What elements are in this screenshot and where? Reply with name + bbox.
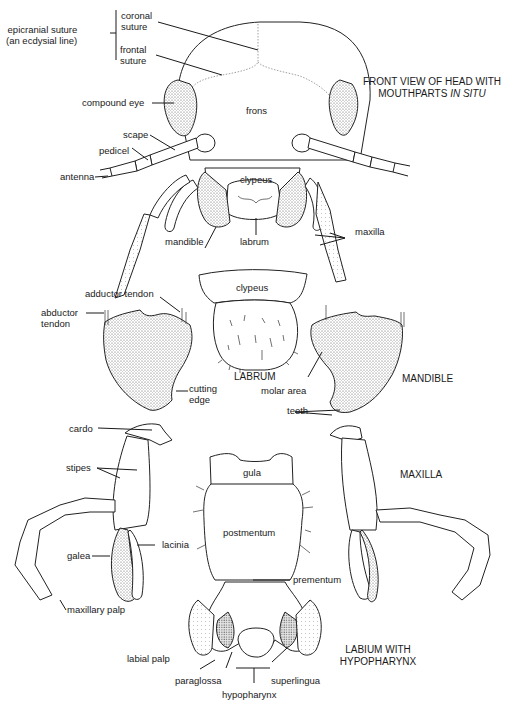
label-lacinia: lacinia [162, 540, 189, 551]
label-adductor-tendon: adductor tendon [85, 289, 154, 300]
label-paraglossa: paraglossa [175, 676, 221, 687]
label-pedicel: pedicel [99, 146, 129, 157]
label-compound-eye: compound eye [82, 98, 144, 109]
maxilla-detached-left [15, 424, 172, 601]
label-stipes: stipes [66, 463, 91, 474]
label-maxilla-head: maxilla [355, 227, 385, 238]
label-cardo: cardo [69, 424, 93, 435]
label-mandible-head: mandible [165, 237, 204, 248]
stipes-right [341, 438, 377, 530]
maxillary-palp-detached-right [376, 508, 490, 600]
label-hypopharynx: hypopharynx [222, 690, 276, 701]
hypopharynx-lobe [238, 628, 274, 657]
label-frons: frons [246, 106, 267, 117]
labrum-plate [213, 300, 297, 370]
head-panel-title: FRONT VIEW OF HEAD WITHMOUTHPARTS IN SIT… [357, 76, 507, 100]
labium-detached [189, 454, 321, 658]
label-postmentum: postmentum [223, 528, 275, 539]
maxilla-panel-title: MAXILLA [400, 469, 442, 481]
mandible-detached-left [104, 308, 192, 410]
label-frontal-suture: frontalsuture [120, 45, 146, 66]
label-maxillary-palp: maxillary palp [67, 605, 125, 616]
labium-panel-title: LABIUM WITHHYPOPHARYNX [318, 644, 438, 668]
maxillary-palp-detached-left [15, 498, 115, 600]
label-gula: gula [243, 468, 261, 479]
label-superlingua: superlingua [271, 676, 320, 687]
label-cutting-edge: cuttingedge [189, 384, 217, 405]
label-abductor-tendon: abductortendon [41, 308, 78, 329]
mandible-panel-title: MANDIBLE [402, 373, 453, 385]
label-coronal-suture: coronalsuture [121, 11, 152, 32]
label-antenna: antenna [60, 172, 94, 183]
stipes-left [113, 436, 150, 530]
label-labrum-head: labrum [240, 237, 269, 248]
label-scape: scape [123, 130, 148, 141]
compound-eye-left [164, 80, 197, 136]
head-front-view [100, 22, 410, 298]
label-galea: galea [67, 551, 90, 562]
labrum-panel-title: LABRUM [234, 371, 276, 383]
label-epicranial-suture: epicranial suture(an ecdysial line) [6, 25, 77, 46]
label-prementum: prementum [293, 575, 341, 586]
label-teeth: teeth [287, 406, 308, 417]
maxilla-detached-right [330, 426, 490, 602]
mandible-detached-right [311, 305, 404, 413]
label-clypeus-detached: clypeus [236, 283, 268, 294]
label-molar-area: molar area [261, 386, 306, 397]
labrum-outline [226, 180, 282, 220]
label-clypeus-head: clypeus [240, 175, 272, 186]
label-labial-palp: labial palp [127, 654, 170, 665]
maxillary-palp-left [115, 214, 150, 298]
maxillary-palp-right [316, 182, 346, 282]
